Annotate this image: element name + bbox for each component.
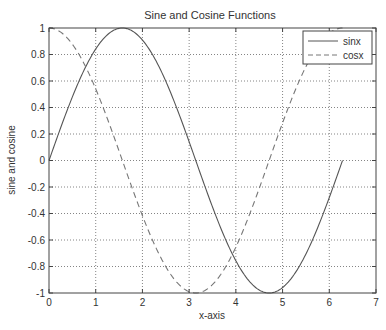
y-tick-label: -0.4 — [28, 208, 46, 219]
y-tick-label: -1 — [36, 288, 45, 299]
plot-area-frame — [49, 28, 376, 293]
x-tick-label: 0 — [46, 297, 52, 308]
y-tick-label: 0.8 — [31, 49, 45, 60]
x-axis-label: x-axis — [199, 310, 225, 321]
grid-lines — [49, 28, 376, 293]
y-tick-label: 0.2 — [31, 129, 45, 140]
x-tick-label: 7 — [373, 297, 379, 308]
x-tick-label: 5 — [280, 297, 286, 308]
x-tick-label: 4 — [233, 297, 239, 308]
axis-ticks: 0123456710.80.60.40.20-0.2-0.4-0.6-0.8-1 — [28, 23, 379, 309]
y-tick-label: 0 — [39, 155, 45, 166]
y-tick-label: 0.4 — [31, 102, 45, 113]
chart-title: Sine and Cosine Functions — [144, 9, 276, 21]
y-tick-label: 1 — [39, 23, 45, 34]
chart: 0123456710.80.60.40.20-0.2-0.4-0.6-0.8-1… — [0, 0, 386, 330]
legend-label-sinx: sinx — [343, 36, 361, 47]
y-tick-label: 0.6 — [31, 76, 45, 87]
legend-label-cosx: cosx — [343, 50, 364, 61]
x-tick-label: 1 — [93, 297, 99, 308]
y-tick-label: -0.8 — [28, 261, 46, 272]
x-tick-label: 2 — [140, 297, 146, 308]
x-tick-label: 3 — [186, 297, 192, 308]
y-tick-label: -0.6 — [28, 235, 46, 246]
y-tick-label: -0.2 — [28, 182, 46, 193]
y-axis-label: sine and cosine — [6, 125, 17, 195]
legend: sinx cosx — [303, 31, 372, 64]
x-tick-label: 6 — [327, 297, 333, 308]
